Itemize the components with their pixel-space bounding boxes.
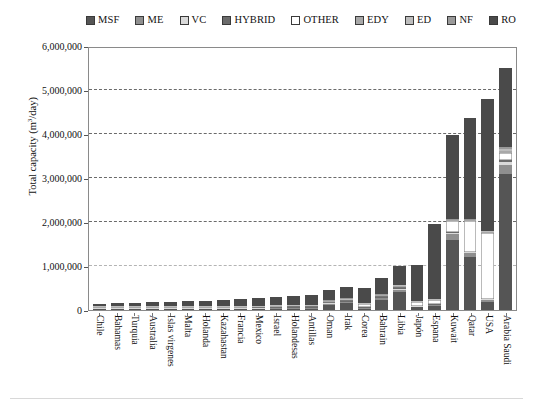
stacked-bar[interactable] [446,135,459,310]
x-axis-tick-label: Israel [271,315,281,336]
legend-item-ro[interactable]: RO [489,15,516,26]
legend-swatch-icon [405,16,414,25]
x-axis-label-slot: Libia [391,313,409,401]
y-axis-tick-label: 1,000,000 [26,262,82,272]
bar-slot [496,48,514,310]
stacked-bar[interactable] [146,302,159,310]
bar-segment-ro [323,290,336,301]
bar-segment-msf [446,240,459,310]
legend-swatch-icon [86,16,95,25]
legend-item-label: ME [147,15,163,26]
legend-item-label: EDY [367,15,389,26]
legend-item-label: OTHER [303,15,339,26]
stacked-bar[interactable] [358,288,371,310]
bar-segment-ro [428,224,441,299]
bar-segment-msf [305,309,318,310]
stacked-bar[interactable] [93,304,106,310]
legend-swatch-icon [447,16,456,25]
bar-slot [373,48,391,310]
x-axis-label-slot: Arabia Saudi [497,313,515,401]
bar-segment-msf [323,305,336,310]
x-axis-label-slot: Holanda [196,313,214,401]
stacked-bar[interactable] [340,287,353,310]
legend-item-msf[interactable]: MSF [86,15,119,26]
bar-slot [320,48,338,310]
stacked-bar[interactable] [217,300,230,310]
stacked-bar[interactable] [129,303,142,310]
x-axis-label-slot: USA [479,313,497,401]
stacked-bar[interactable] [375,278,388,310]
x-axis-label-slot: Holandesas [285,313,303,401]
x-axis-label-slot: Australia [143,313,161,401]
bar-segment-ro [358,288,371,302]
x-axis-label-slot: Irak [338,313,356,401]
bar-slot [179,48,197,310]
stacked-bar[interactable] [252,298,265,310]
x-axis-label-slot: Espana [426,313,444,401]
stacked-bar[interactable] [270,297,283,310]
stacked-bar[interactable] [428,224,441,310]
bar-slot [479,48,497,310]
bar-segment-ro [499,68,512,147]
x-axis-label-slot: Islas virgenes [161,313,179,401]
legend-item-ed[interactable]: ED [405,15,431,26]
y-axis-tick-label: 6,000,000 [26,42,82,52]
bar-slot [355,48,373,310]
x-axis-tick-label: Bahamas [112,315,122,350]
x-axis-tick-label: Chile [94,315,104,336]
legend-item-hybrid[interactable]: HYBRID [222,15,275,26]
y-axis-tick-label: 2,000,000 [26,218,82,228]
y-axis-title-tail: /day) [27,97,38,119]
legend-swatch-icon [355,16,364,25]
x-axis-tick-label: Turquia [130,315,140,345]
stacked-bar[interactable] [411,265,424,310]
stacked-bar[interactable] [464,118,477,310]
stacked-bar[interactable] [164,302,177,310]
stacked-bar[interactable] [111,303,124,310]
legend-item-label: VC [192,15,207,26]
bar-slot [162,48,180,310]
bar-segment-ro [340,287,353,299]
x-axis-label-slot: Mexico [249,313,267,401]
stacked-bar[interactable] [499,68,512,310]
stacked-bar[interactable] [393,266,406,310]
x-axis-label-slot: Kazahastan [214,313,232,401]
stacked-bar[interactable] [234,299,247,310]
x-axis-label-slot: Corea [356,313,374,401]
bar-slot [232,48,250,310]
bar-segment-msf [199,309,212,310]
x-axis-label-slot: Bahrain [373,313,391,401]
bar-slot [91,48,109,310]
bar-segment-ro [375,278,388,294]
bar-slot [144,48,162,310]
stacked-bar[interactable] [199,301,212,310]
x-axis-label-slot: Antillas [302,313,320,401]
legend-item-me[interactable]: ME [135,15,163,26]
bar-segment-ro [252,298,265,305]
bar-slot [250,48,268,310]
x-axis-label-slot: Bahamas [108,313,126,401]
legend-item-other[interactable]: OTHER [291,15,339,26]
legend-item-label: ED [417,15,431,26]
x-axis-tick-label: Francia [236,315,246,344]
legend-item-vc[interactable]: VC [180,15,207,26]
x-axis-label-slot: Oman [320,313,338,401]
stacked-bar[interactable] [182,301,195,310]
legend-item-nf[interactable]: NF [447,15,473,26]
stacked-bar[interactable] [481,99,494,310]
legend-item-label: HYBRID [234,15,275,26]
x-axis-tick-label: Holanda [200,315,210,347]
bar-segment-msf [217,309,230,310]
bar-segment-other [464,221,477,252]
stacked-bar[interactable] [287,296,300,310]
bar-slot [303,48,321,310]
legend-swatch-icon [222,16,231,25]
stacked-bar[interactable] [305,295,318,310]
bar-segment-msf [129,309,142,310]
legend-item-edy[interactable]: EDY [355,15,389,26]
legend-swatch-icon [489,16,498,25]
bar-segment-msf [481,302,494,310]
bar-segment-msf [375,300,388,310]
bar-segment-ro [234,299,247,306]
stacked-bar[interactable] [323,290,336,310]
